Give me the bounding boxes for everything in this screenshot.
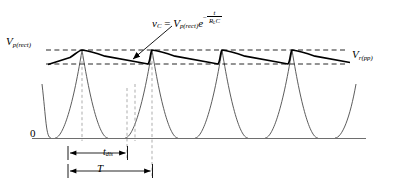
- equation-equals: =: [161, 17, 173, 29]
- equation-exponent-fraction: tRLC: [207, 9, 222, 26]
- equation-exponent-numerator: t: [207, 9, 222, 17]
- tdis-subscript: dis: [106, 150, 113, 157]
- equation-exponent-denominator: RLC: [207, 17, 222, 25]
- discharge-time-label: tdis: [103, 147, 113, 158]
- capacitor-voltage-equation: vC = Vp(rect)e−tRLC: [152, 9, 222, 30]
- period-label: T: [97, 163, 103, 174]
- period-dimension: [68, 164, 153, 178]
- ripple-voltage-label: Vr(pp): [352, 49, 373, 61]
- ripple-voltage-symbol: V: [352, 48, 359, 60]
- rectified-sine-waveform: [42, 50, 356, 138]
- time-marker-dashed-lines: [82, 50, 152, 176]
- equation-c-symbol: C: [215, 17, 220, 24]
- equation-vp-symbol: V: [173, 17, 180, 29]
- tdis-dimension: [68, 146, 128, 160]
- zero-axis-label: 0: [30, 128, 36, 139]
- peak-voltage-subscript: p(rect): [13, 41, 31, 48]
- capacitor-ripple-curve: [48, 50, 350, 65]
- peak-voltage-symbol: V: [6, 35, 13, 47]
- peak-voltage-label: Vp(rect): [6, 36, 31, 48]
- ripple-voltage-subscript: r(pp): [359, 54, 373, 61]
- rectifier-ripple-figure: Vp(rect) Vr(pp) 0 vC = Vp(rect)e−tRLC td…: [0, 0, 393, 187]
- equation-vp-subscript: p(rect): [180, 22, 198, 29]
